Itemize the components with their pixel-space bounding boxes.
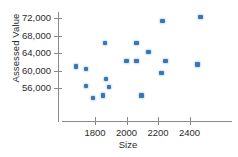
data-point <box>160 19 164 23</box>
data-point <box>159 71 163 75</box>
data-point <box>134 41 138 45</box>
data-point <box>104 77 108 81</box>
data-point <box>101 93 105 97</box>
data-point <box>84 84 88 88</box>
data-point <box>74 64 78 68</box>
data-point <box>91 96 95 100</box>
data-point <box>103 41 107 45</box>
data-point <box>163 59 167 63</box>
data-point <box>134 59 138 63</box>
data-point <box>139 93 143 97</box>
data-point <box>198 15 202 19</box>
data-point <box>195 62 199 66</box>
data-point <box>124 59 128 63</box>
data-point <box>84 67 88 71</box>
data-point <box>107 85 111 89</box>
plot-area <box>0 0 238 157</box>
data-point <box>146 50 150 54</box>
scatter-plot: Assessed Value Size 56,00060,00064,00068… <box>0 0 238 157</box>
